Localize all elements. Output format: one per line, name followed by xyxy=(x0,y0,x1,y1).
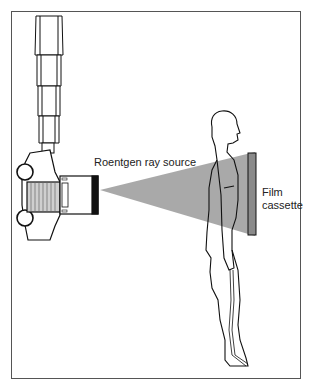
xray-source xyxy=(17,150,98,240)
film-cassette xyxy=(248,153,256,235)
ceiling-arm xyxy=(35,16,63,153)
source-label: Roentgen ray source xyxy=(94,156,196,169)
film-label-line2: cassette xyxy=(262,199,303,212)
patient-figure xyxy=(206,111,248,366)
film-label-line1: Film xyxy=(262,186,283,199)
